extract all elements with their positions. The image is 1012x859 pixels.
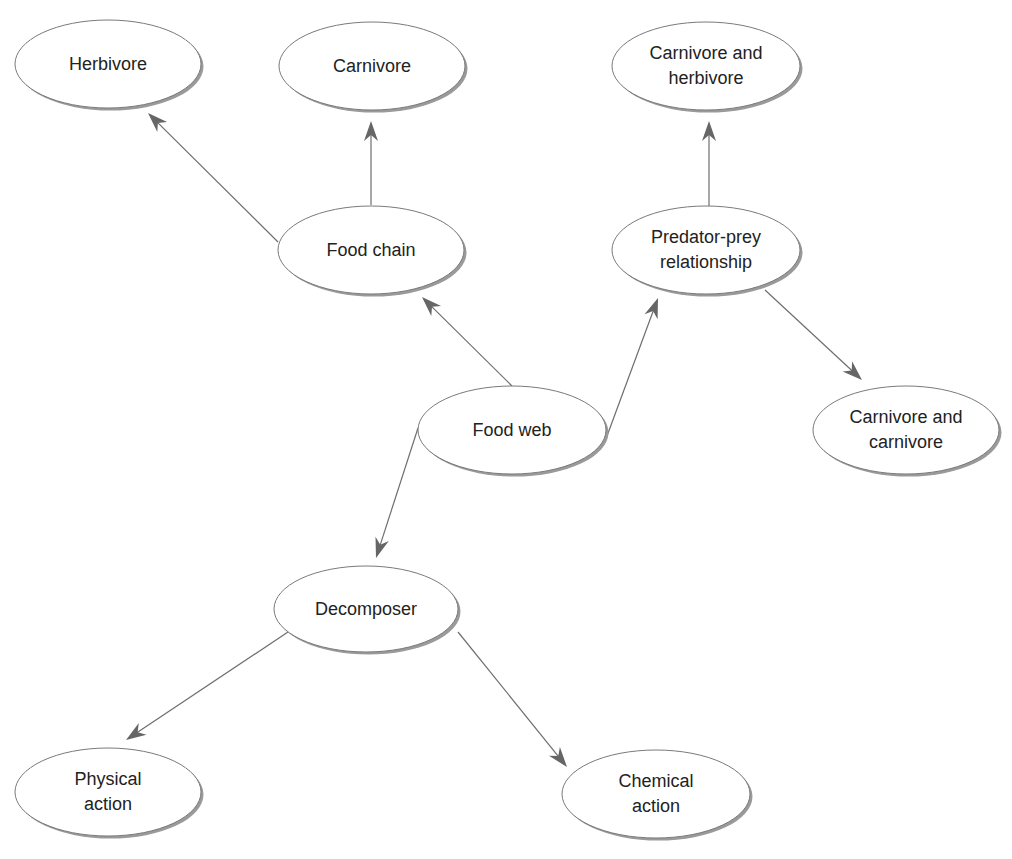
edge-decomposer-to-chemical-action [458, 632, 567, 767]
edge-predator-prey-relationship-to-carnivore-and-carnivore [765, 290, 862, 380]
node-label-carnivore-and-carnivore: Carnivore and carnivore [813, 386, 999, 474]
edge-decomposer-to-physical-action [126, 632, 288, 740]
edge-predator-prey-relationship-to-carnivore-and-herbivore [702, 121, 716, 206]
node-label-predator-prey-relationship: Predator-prey relationship [612, 206, 800, 294]
node-label-food-web: Food web [418, 386, 606, 474]
node-label-food-chain: Food chain [278, 206, 464, 294]
edge-food-web-to-decomposer [376, 428, 419, 558]
node-label-decomposer: Decomposer [274, 566, 458, 652]
node-label-herbivore: Herbivore [15, 20, 201, 108]
edge-food-web-to-predator-prey-relationship [607, 298, 658, 436]
arrowhead-icon [126, 723, 147, 740]
edge-food-web-to-food-chain [422, 297, 512, 386]
node-label-carnivore-and-herbivore: Carnivore and herbivore [612, 22, 800, 110]
node-label-carnivore: Carnivore [279, 22, 465, 110]
edge-food-chain-to-carnivore [364, 121, 378, 205]
node-label-physical-action: Physical action [15, 748, 201, 836]
node-label-chemical-action: Chemical action [562, 750, 750, 838]
edge-food-chain-to-herbivore [148, 113, 278, 242]
